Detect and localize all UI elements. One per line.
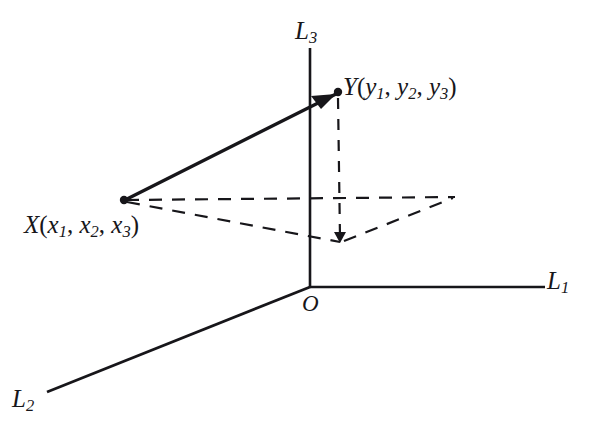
point-label-y: Y(y1, y2, y3) (343, 74, 457, 99)
point-label-x-sep-1: , (67, 211, 80, 238)
axis-label-l2: L2 (12, 386, 34, 411)
point-label-x-coord-2: x (79, 211, 90, 238)
point-label-y-coord-2: y (397, 73, 408, 100)
point-label-x-sub-2: 2 (91, 222, 99, 241)
axis-label-l3: L3 (295, 18, 317, 43)
point-label-y-sep-1: , (385, 73, 398, 100)
axis-label-l3-subscript: 3 (309, 28, 317, 47)
point-marker-y (334, 88, 342, 96)
point-label-x-name: X (24, 211, 39, 238)
dashed-y-vertical-drop (338, 98, 340, 238)
point-label-y-rparen: ) (448, 73, 456, 100)
axis-label-l1: L1 (547, 268, 569, 293)
point-label-x-sub-3: 3 (122, 222, 130, 241)
axis-label-l2-subscript: 2 (26, 396, 34, 415)
dashed-bottom-to-right-vertex (344, 198, 453, 241)
origin-label: O (302, 292, 319, 315)
construction-lines-group (126, 98, 455, 242)
point-label-y-name: Y (343, 73, 357, 100)
vector-x-to-y-arrowhead (311, 94, 336, 109)
point-label-x-sep-2: , (99, 211, 112, 238)
point-label-y-coord-3: y (429, 73, 440, 100)
axis-label-l2-base: L (12, 385, 26, 412)
point-label-y-coord-1: y (365, 73, 376, 100)
vector-x-to-y (125, 94, 336, 200)
point-label-x-coord-1: x (48, 211, 59, 238)
point-label-y-sep-2: , (416, 73, 429, 100)
figure-canvas: L3 L1 L2 O Y(y1, y2, y3) X(x1, x2, x3) (0, 0, 595, 434)
axis-label-l1-subscript: 1 (561, 278, 569, 297)
point-label-y-sub-3: 3 (440, 84, 448, 103)
point-label-y-sub-1: 1 (376, 84, 384, 103)
dashed-x-to-right-vertex (126, 197, 455, 200)
axis-l2-line (47, 287, 310, 392)
point-label-x: X(x1, x2, x3) (24, 212, 139, 237)
point-label-y-lparen: ( (357, 73, 365, 100)
point-label-x-coord-3: x (111, 211, 122, 238)
dashed-x-to-bottom-vertex (127, 202, 340, 242)
axis-label-l3-base: L (295, 17, 309, 44)
point-label-x-rparen: ) (131, 211, 139, 238)
point-label-x-sub-1: 1 (59, 222, 67, 241)
point-label-x-lparen: ( (39, 211, 47, 238)
vector-x-to-y-shaft (125, 94, 336, 200)
axis-label-l1-base: L (547, 267, 561, 294)
point-label-y-sub-2: 2 (408, 84, 416, 103)
point-marker-x (120, 196, 128, 204)
